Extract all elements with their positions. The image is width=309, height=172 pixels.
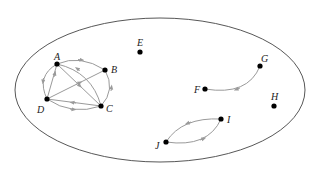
label-G: G xyxy=(261,53,268,64)
edge-A-D xyxy=(43,64,57,99)
edge-C-D-arrow xyxy=(72,103,76,104)
label-J: J xyxy=(155,140,160,151)
edge-C-B-arrow xyxy=(111,87,112,91)
edge-A-D-arrow xyxy=(43,78,44,82)
label-A: A xyxy=(53,51,61,62)
label-C: C xyxy=(106,103,113,114)
node-A xyxy=(54,61,59,66)
node-C xyxy=(98,103,103,108)
node-E xyxy=(137,49,142,54)
label-I: I xyxy=(226,114,231,125)
node-B xyxy=(102,67,107,72)
graph-diagram: A B C D E F G H I J xyxy=(0,0,309,172)
edge-D-C xyxy=(47,99,101,110)
nodes xyxy=(44,49,276,144)
edge-A-B-arrow xyxy=(78,60,82,61)
node-I xyxy=(218,116,223,121)
labels: A B C D E F G H I J xyxy=(36,37,279,151)
node-D xyxy=(44,96,49,101)
edges xyxy=(43,60,260,144)
edge-G-F xyxy=(205,66,260,90)
node-J xyxy=(163,139,168,144)
edge-J-I xyxy=(166,119,221,143)
label-B: B xyxy=(111,64,117,75)
set-boundary xyxy=(15,18,305,162)
edge-C-A-arrow xyxy=(77,69,80,71)
node-H xyxy=(271,103,276,108)
edge-D-C-arrow xyxy=(70,109,74,110)
node-F xyxy=(202,86,207,91)
edge-D-A xyxy=(47,64,57,99)
edge-A-B xyxy=(57,60,105,70)
edge-I-J xyxy=(166,119,221,142)
edge-C-B xyxy=(101,70,110,106)
label-D: D xyxy=(36,104,45,115)
edge-J-I-arrow xyxy=(200,139,204,141)
edge-I-J-arrow xyxy=(187,122,191,124)
label-E: E xyxy=(136,37,143,48)
label-F: F xyxy=(193,84,201,95)
label-H: H xyxy=(270,91,279,102)
node-G xyxy=(257,63,262,68)
